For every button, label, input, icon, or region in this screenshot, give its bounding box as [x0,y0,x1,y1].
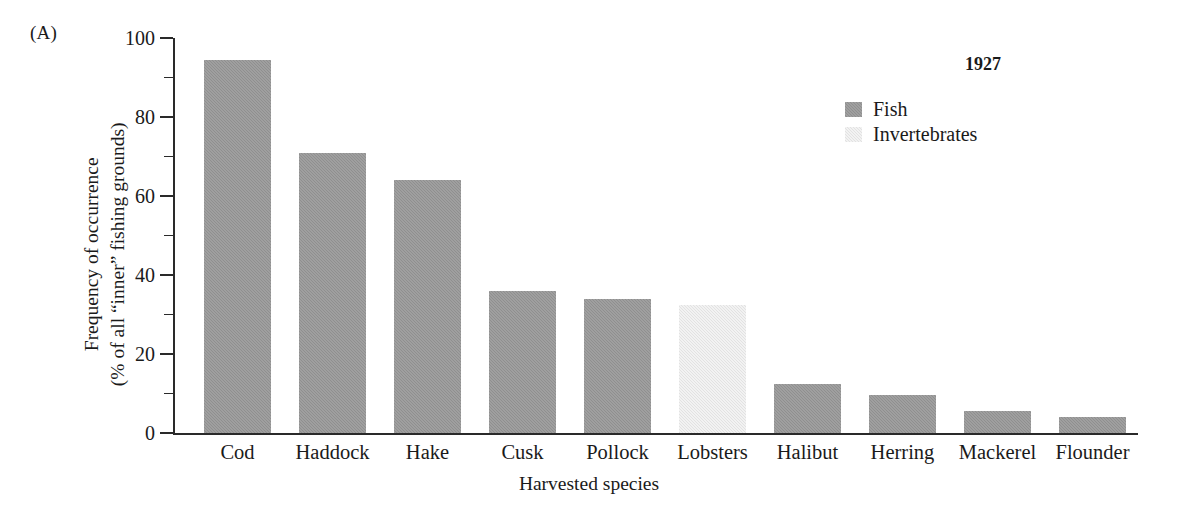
y-axis-tick-label: 20 [135,344,155,364]
bar-halibut [774,384,841,433]
bar-mackerel [964,411,1031,433]
bar-cod [204,60,271,433]
y-axis-tick-label: 0 [145,423,155,443]
legend-label-invertebrates: Invertebrates [873,124,977,145]
legend-item: Invertebrates [845,124,1105,145]
y-axis-tick-label: 80 [135,107,155,127]
y-axis-tick-major [160,353,173,355]
y-axis-tick-labels: 020406080100 [85,38,155,434]
x-axis-line [173,433,1138,435]
y-axis-tick-minor [164,156,173,158]
bar-haddock [299,153,366,433]
bar-herring [869,395,936,433]
bar-pollock [584,299,651,433]
y-axis-tick-label: 100 [125,28,155,48]
y-axis-tick-minor [164,77,173,79]
y-axis-tick-major [160,116,173,118]
y-axis-tick-major [160,195,173,197]
legend-items: FishInvertebrates [845,99,1105,145]
y-axis-tick-major [160,432,173,434]
panel-label: (A) [30,22,57,44]
y-axis-tick-label: 60 [135,186,155,206]
bar-hake [394,180,461,433]
y-axis-tick-minor [164,393,173,395]
bar-cusk [489,291,556,433]
figure-panel-a: (A) Frequency of occurrence (% of all “i… [0,0,1178,519]
bar-flounder [1059,417,1126,433]
legend-label-fish: Fish [873,99,907,120]
x-axis-label-flounder: Flounder [1033,442,1152,463]
legend-item: Fish [845,99,1105,120]
y-axis-tick-label: 40 [135,265,155,285]
y-axis-line [173,38,175,434]
y-axis-tick-major [160,37,173,39]
y-axis-tick-minor [164,314,173,316]
legend: 1927 FishInvertebrates [845,55,1105,149]
y-axis-tick-minor [164,235,173,237]
legend-title: 1927 [965,55,1105,73]
x-axis-title: Harvested species [0,474,1178,494]
legend-swatch-fish [845,102,862,117]
legend-swatch-invertebrates [845,127,862,142]
y-axis-tick-major [160,274,173,276]
bar-lobsters [679,305,746,433]
